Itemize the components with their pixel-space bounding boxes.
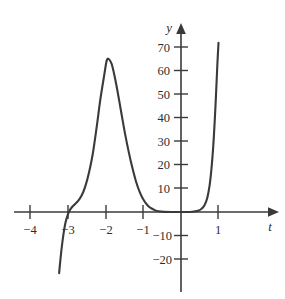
function-curve xyxy=(59,43,218,273)
x-tick-label-pos1: 1 xyxy=(215,223,221,237)
x-tick-label-neg1: −1 xyxy=(136,223,149,237)
x-axis-arrow-icon xyxy=(268,207,279,217)
y-tick-label-60: 60 xyxy=(158,64,171,78)
y-tick-label-40: 40 xyxy=(158,111,171,125)
y-tick-label-neg10: −10 xyxy=(152,229,172,243)
y-tick-label-50: 50 xyxy=(158,88,171,102)
x-axis-label: t xyxy=(268,219,272,234)
y-tick-label-neg20: −20 xyxy=(152,253,172,267)
x-tick-label-neg4: −4 xyxy=(23,223,37,237)
plot-canvas: −4 −3 −2 −1 1 70 60 50 40 30 20 10 −10 −… xyxy=(0,0,285,299)
y-axis-arrow-icon xyxy=(176,23,186,34)
y-axis-label: y xyxy=(164,20,172,35)
x-tick-labels: −4 −3 −2 −1 1 xyxy=(23,223,221,237)
y-tick-label-10: 10 xyxy=(158,182,171,196)
graph-figure: −4 −3 −2 −1 1 70 60 50 40 30 20 10 −10 −… xyxy=(0,0,285,299)
y-tick-label-30: 30 xyxy=(158,135,171,149)
y-axis xyxy=(176,23,186,292)
x-tick-label-neg2: −2 xyxy=(99,223,112,237)
y-tick-label-20: 20 xyxy=(158,158,171,172)
y-tick-label-70: 70 xyxy=(158,41,171,55)
y-tick-labels: 70 60 50 40 30 20 10 −10 −20 xyxy=(152,41,172,267)
x-axis xyxy=(14,207,279,217)
